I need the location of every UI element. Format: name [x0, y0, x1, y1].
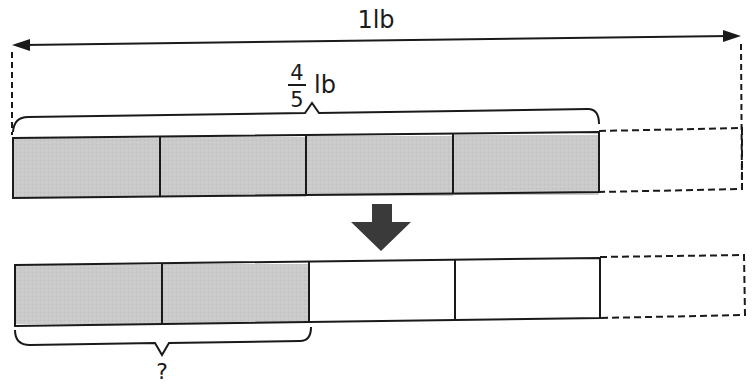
top-bar-segment-2	[159, 137, 306, 197]
bottom-bar-segment-2	[162, 264, 309, 323]
top-bar-segment-3	[306, 136, 453, 196]
bar-model-diagram: 1lb 4 5 lb ?	[0, 0, 752, 384]
whole-label: 1lb	[357, 6, 394, 34]
fraction-numerator: 4	[290, 61, 303, 85]
bottom-bar-segment-1	[15, 265, 162, 324]
bottom-brace	[15, 327, 311, 355]
down-arrow-icon	[351, 204, 411, 251]
fraction-denominator: 5	[290, 88, 303, 112]
top-brace	[13, 103, 599, 132]
top-bar-segment-1	[13, 138, 159, 197]
right-guide-line-top	[741, 44, 742, 190]
fraction-unit: lb	[314, 71, 336, 99]
top-bar-missing-segment	[599, 128, 742, 192]
top-bar	[13, 128, 742, 198]
top-bar-segment-4	[453, 135, 599, 195]
bottom-bar	[15, 255, 745, 326]
unknown-label: ?	[156, 359, 168, 384]
bottom-bar-missing-segment	[600, 255, 745, 318]
